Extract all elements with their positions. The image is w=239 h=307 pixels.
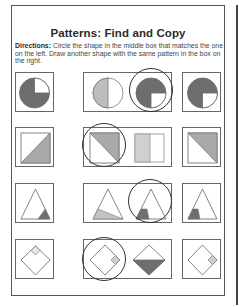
answer-circle-row3[interactable] [128, 179, 172, 223]
row1-left-box [15, 72, 54, 112]
row1-right-box[interactable] [182, 72, 221, 112]
worksheet-title: Patterns: Find and Copy [11, 27, 225, 39]
answer-circle-row4[interactable] [82, 237, 126, 281]
drawn-triangle-shape [183, 184, 222, 224]
row2-left-box [15, 127, 54, 167]
answer-circle-row2[interactable] [82, 123, 126, 167]
half-dark-diamond-option[interactable] [133, 245, 165, 275]
row3-right-box[interactable] [182, 183, 221, 223]
band-triangle-option[interactable] [93, 189, 123, 219]
row4-left-box [15, 239, 54, 279]
adjacent-page-edge [236, 5, 238, 305]
row3-left-box [15, 183, 54, 223]
answer-circle-row1[interactable] [129, 68, 173, 112]
triangle-shape [16, 184, 55, 224]
drawn-square-shape [183, 128, 222, 168]
directions-text: Directions: Circle the shape in the midd… [15, 42, 223, 65]
diagonal-square-shape [16, 128, 55, 168]
diamond-shape [16, 240, 55, 280]
row2-right-box[interactable] [182, 127, 221, 167]
drawn-diamond-shape [183, 240, 222, 280]
half-shaded-circle[interactable] [93, 78, 123, 108]
row4-right-box[interactable] [182, 239, 221, 279]
circle-three-quarter-shape [16, 73, 55, 113]
half-shaded-rectangle[interactable] [135, 134, 164, 162]
drawn-circle-shape [183, 73, 222, 113]
directions-label: Directions: [15, 42, 51, 49]
